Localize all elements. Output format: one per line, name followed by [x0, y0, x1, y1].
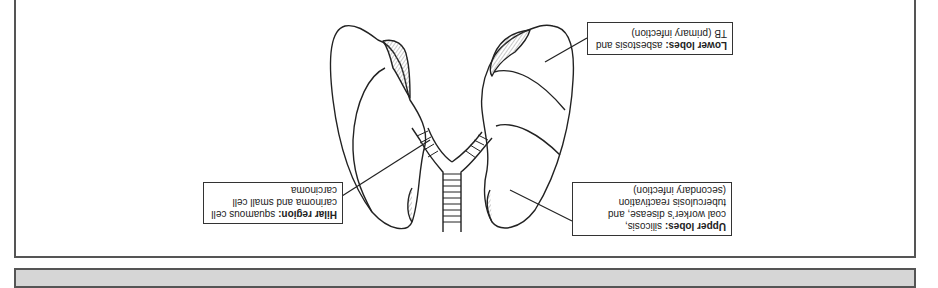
upper-lobes-label: Upper lobes: silicosis, coal worker’s di…	[572, 182, 732, 236]
lower-title: Lower lobes:	[665, 40, 727, 51]
hilar-title: Hilar region:	[278, 209, 337, 220]
upper-line4: (secondary infection)	[578, 184, 726, 196]
hilar-region-label: Hilar region: squamous cell carinoma and…	[203, 182, 343, 224]
left-lung	[331, 26, 426, 229]
right-lung	[482, 25, 574, 228]
upper-title: Upper lobes:	[665, 221, 726, 232]
lower-line2: TB (primary infection)	[593, 27, 727, 39]
hilar-line1: squamous cell	[211, 209, 278, 220]
upper-line1: silicosis,	[625, 221, 665, 232]
hilar-line3: carcinoma	[209, 184, 337, 196]
hilar-line2: carinoma and small cell	[209, 196, 337, 208]
upper-line2: coal worker’s disease, and	[578, 208, 726, 220]
lower-line1: asbestosis and	[596, 40, 666, 51]
lower-lobes-label: Lower lobes: asbestosis and TB (primary …	[587, 22, 733, 55]
upper-line3: tuberculosis reactivation	[578, 196, 726, 208]
